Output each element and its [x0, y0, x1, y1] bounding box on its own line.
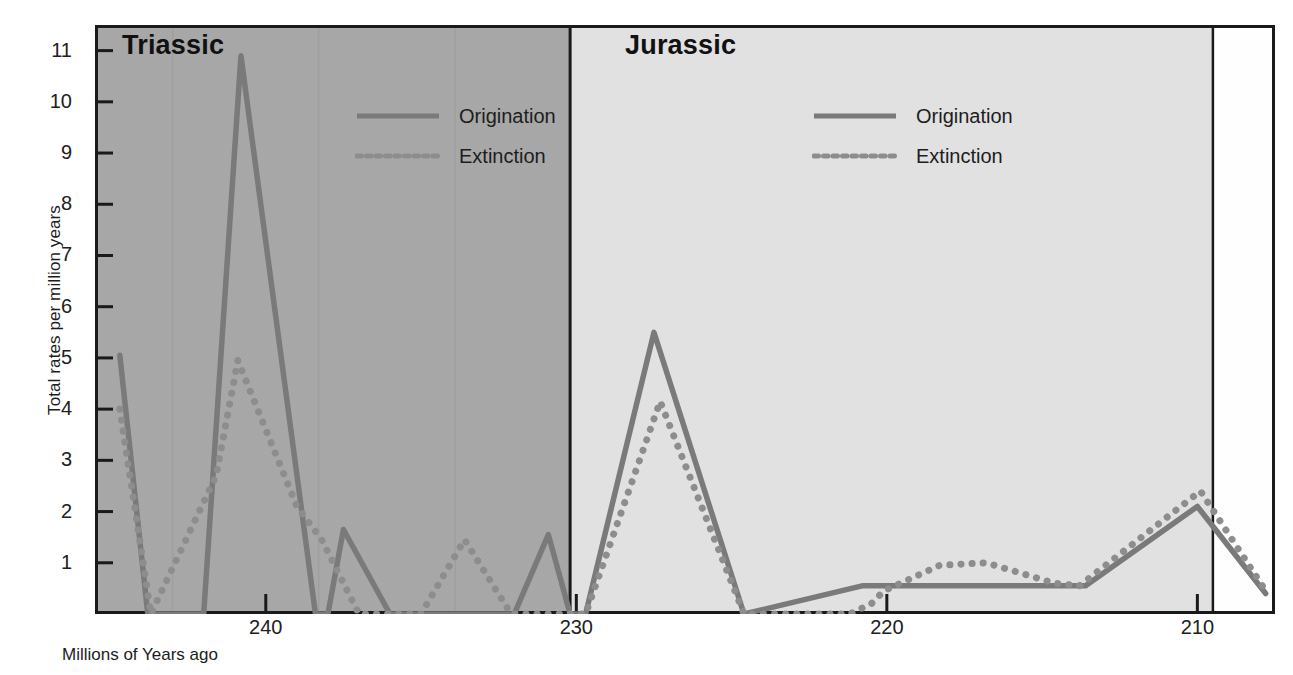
legend-row-extinction: Extinction [812, 136, 1013, 176]
legend-label-extinction: Extinction [459, 145, 546, 168]
chart-svg [95, 25, 1275, 614]
legend-row-extinction: Extinction [355, 136, 556, 176]
chart-figure: Total rates per million years Millions o… [0, 0, 1293, 675]
x-tick-label: 210 [1157, 616, 1237, 639]
legend-row-origination: Origination [355, 96, 556, 136]
x-tick-label: 240 [226, 616, 306, 639]
legend-jurassic: Origination Extinction [812, 96, 1013, 176]
legend-label-extinction: Extinction [916, 145, 1003, 168]
legend-label-origination: Origination [916, 105, 1013, 128]
plot-area [95, 25, 1275, 614]
panel-title-triassic: Triassic [122, 30, 224, 61]
paper-texture [95, 25, 1275, 614]
panel-title-jurassic: Jurassic [625, 30, 736, 61]
dotted-line-swatch-icon [355, 148, 441, 164]
legend-triassic: Origination Extinction [355, 96, 556, 176]
dotted-line-swatch-icon [812, 148, 898, 164]
solid-line-swatch-icon [355, 108, 441, 124]
legend-row-origination: Origination [812, 96, 1013, 136]
solid-line-swatch-icon [812, 108, 898, 124]
x-tick-label: 220 [847, 616, 927, 639]
legend-label-origination: Origination [459, 105, 556, 128]
x-tick-label: 230 [536, 616, 616, 639]
